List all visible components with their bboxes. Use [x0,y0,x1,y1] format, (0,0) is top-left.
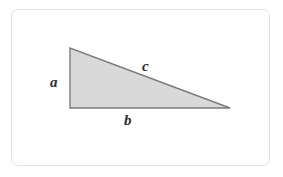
right-triangle-shape [70,48,230,108]
side-label-b: b [124,113,132,128]
side-label-a: a [50,75,58,90]
side-label-c: c [142,59,149,74]
triangle-graphic [0,0,283,177]
